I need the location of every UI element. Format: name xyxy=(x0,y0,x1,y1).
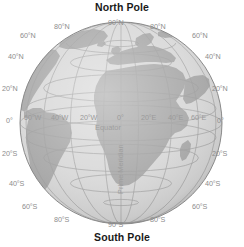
south-pole-title: South Pole xyxy=(0,231,244,243)
prime-meridian-label: Prime Meridian xyxy=(117,144,125,194)
latitude-label-left-20s: 20°S xyxy=(2,150,17,158)
latitude-label-left-40n: 40°N xyxy=(8,53,24,61)
graticule-label-80n-left: 80°N xyxy=(54,23,70,31)
latitude-label-right-0: 0° xyxy=(217,117,224,125)
equator-label: Equator xyxy=(95,124,121,132)
longitude-label-40e: 40°E xyxy=(168,114,183,122)
latitude-label-left-60n: 60°N xyxy=(20,32,36,40)
latitude-label-left-40s: 40°S xyxy=(9,180,24,188)
latitude-label-right-60s: 60°S xyxy=(192,203,207,211)
longitude-label-60e: 60°E xyxy=(191,114,206,122)
longitude-label-0: 0° xyxy=(117,114,124,122)
latitude-label-right-20n: 20°N xyxy=(212,85,228,93)
globe-figure: North Pole South Pole 80°N 90°N 80°N 80°… xyxy=(0,0,244,247)
graticule-label-80n-right: 80°N xyxy=(150,23,166,31)
latitude-label-left-0: 0° xyxy=(6,117,13,125)
longitude-label-60w: 60°W xyxy=(24,114,41,122)
graticule-label-90n: 90°N xyxy=(108,19,124,27)
graticule-label-80s-right: 80°S xyxy=(150,216,165,224)
latitude-label-right-20s: 20°S xyxy=(212,150,227,158)
longitude-label-20w: 20°W xyxy=(80,114,97,122)
latitude-label-right-40n: 40°N xyxy=(205,53,221,61)
latitude-label-right-40s: 40°S xyxy=(205,180,220,188)
latitude-label-left-60s: 60°S xyxy=(22,203,37,211)
graticule-label-80s-left: 80°S xyxy=(54,216,69,224)
longitude-label-20e: 20°E xyxy=(141,114,156,122)
north-pole-title: North Pole xyxy=(0,1,244,13)
latitude-label-right-60n: 60°N xyxy=(192,32,208,40)
longitude-label-40w: 40°W xyxy=(51,114,68,122)
latitude-label-left-20n: 20°N xyxy=(2,85,18,93)
graticule-label-90s: 90°S xyxy=(108,221,123,229)
